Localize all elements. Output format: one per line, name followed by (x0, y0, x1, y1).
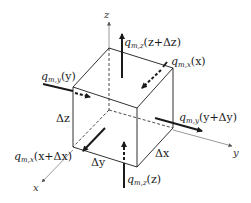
arrow-y-left-dashed (75, 93, 90, 97)
flux-z-top-label: qm,z(z+Δz) (124, 37, 181, 50)
flux-x-front-label: qm,x(x+Δx) (14, 151, 72, 164)
y-axis-label: y (233, 148, 239, 158)
flux-y-left-label: qm,y(y) (41, 71, 76, 84)
y-axis (173, 130, 232, 146)
x-axis-label: x (33, 183, 39, 193)
arrow-x-front (83, 128, 105, 151)
dy-label: Δy (91, 157, 105, 168)
dz-label: Δz (56, 113, 70, 124)
flux-y-right-label: qm,y(y+Δy) (179, 112, 237, 125)
dx-label: Δx (155, 148, 169, 159)
flux-x-back-label: qm,x(x) (171, 56, 206, 69)
arrow-x-back-dashed (142, 70, 161, 88)
arrow-y-left-solid (43, 84, 73, 91)
flux-z-bottom-label: qm,z(z) (127, 174, 161, 187)
control-volume-diagram (0, 0, 251, 203)
z-axis-label: z (104, 10, 109, 20)
